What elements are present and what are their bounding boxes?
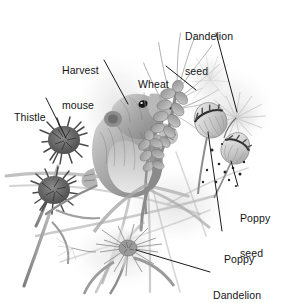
label-wheat-line1: Wheat	[138, 79, 169, 91]
label-harvest-mouse-line2: mouse	[62, 100, 99, 112]
label-dandelion-seed-line2: seed	[185, 66, 233, 78]
label-wheat: Wheat	[138, 56, 169, 114]
label-dandelion-line1: Dandelion	[213, 290, 261, 302]
label-harvest-mouse-line1: Harvest	[62, 65, 99, 77]
label-thistle-line1: Thistle	[14, 112, 46, 124]
label-dandelion-seed: Dandelion seed	[185, 8, 233, 100]
label-harvest-mouse: Harvest mouse	[62, 42, 99, 134]
label-thistle: Thistle	[14, 89, 46, 147]
label-dandelion-seed-line1: Dandelion	[185, 31, 233, 43]
label-poppy-seed-line1: Poppy	[240, 213, 270, 225]
label-poppy-line1: Poppy	[224, 254, 254, 266]
label-dandelion: Dandelion	[213, 267, 261, 303]
